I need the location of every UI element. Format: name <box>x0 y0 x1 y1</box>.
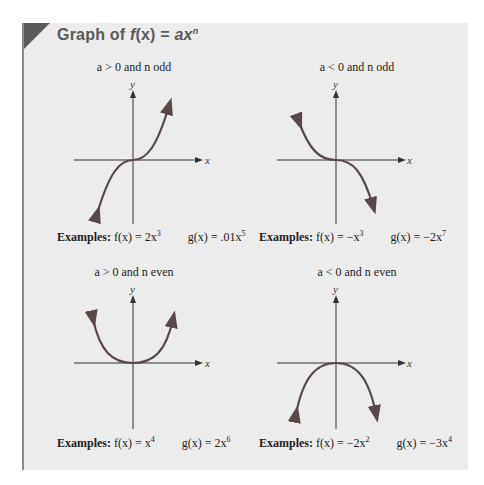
x-axis-label: x <box>204 154 210 166</box>
examples-a-pos-n-odd: Examples: f(x) = 2x3 g(x) = .01x5 <box>57 229 246 245</box>
g-exponent: 6 <box>227 435 231 444</box>
g-exponent: 4 <box>448 435 452 444</box>
graph-a-pos-n-odd: x y <box>24 74 244 234</box>
y-axis-label: y <box>129 283 135 295</box>
title-ax: ax <box>174 26 192 43</box>
condition-label: a < 0 and n odd <box>247 60 467 75</box>
condition-label: a < 0 and n even <box>247 265 467 280</box>
y-axis-label: y <box>129 78 135 90</box>
f-expression: f(x) = 2x <box>114 230 157 244</box>
g-expression: g(x) = 2x <box>182 436 227 450</box>
f-exponent: 2 <box>366 435 370 444</box>
x-axis-label: x <box>406 357 412 369</box>
y-axis-label: y <box>332 283 338 295</box>
examples-a-pos-n-even: Examples: f(x) = x4 g(x) = 2x6 <box>57 435 231 451</box>
title-x: (x) <box>135 26 155 43</box>
g-exponent: 7 <box>442 229 446 238</box>
x-axis-label: x <box>204 357 210 369</box>
examples-label: Examples: <box>259 230 313 244</box>
graph-panel: Graph of f(x) = axn a > 0 and n odd x y … <box>22 23 468 470</box>
f-exponent: 3 <box>157 229 161 238</box>
f-exponent: 4 <box>151 435 155 444</box>
examples-a-neg-n-odd: Examples: f(x) = −x3 g(x) = −2x7 <box>259 229 446 245</box>
examples-a-neg-n-even: Examples: f(x) = −2x2 g(x) = −3x4 <box>259 435 452 451</box>
g-expression: g(x) = .01x <box>188 230 242 244</box>
g-exponent: 5 <box>242 229 246 238</box>
panel-title: Graph of f(x) = axn <box>57 26 198 44</box>
title-eq: = <box>156 26 175 43</box>
title-n: n <box>193 26 199 36</box>
examples-label: Examples: <box>259 436 313 450</box>
f-expression: f(x) = −2x <box>316 436 366 450</box>
graph-a-pos-n-even: x y <box>24 279 244 439</box>
f-expression: f(x) = x <box>114 436 151 450</box>
condition-label: a > 0 and n even <box>24 265 244 280</box>
condition-label: a > 0 and n odd <box>24 60 244 75</box>
graph-a-neg-n-odd: x y <box>247 74 467 234</box>
examples-label: Examples: <box>57 230 111 244</box>
f-exponent: 3 <box>360 229 364 238</box>
g-expression: g(x) = −3x <box>397 436 449 450</box>
g-expression: g(x) = −2x <box>391 230 443 244</box>
title-prefix: Graph of <box>57 26 130 43</box>
f-expression: f(x) = −x <box>316 230 360 244</box>
y-axis-label: y <box>332 78 338 90</box>
x-axis-label: x <box>406 154 412 166</box>
graph-a-neg-n-even: x y <box>247 279 467 439</box>
examples-label: Examples: <box>57 436 111 450</box>
corner-decoration <box>24 23 50 49</box>
